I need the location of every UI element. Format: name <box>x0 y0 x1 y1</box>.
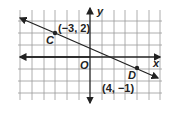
y-axis-label: y <box>96 5 104 17</box>
origin-label: O <box>80 59 89 71</box>
x-axis-label: x <box>152 57 160 69</box>
point-d-coords: (4, −1) <box>102 82 134 94</box>
point-c-label: C <box>46 34 55 46</box>
point-c-coords: (−3, 2) <box>58 22 90 34</box>
point-d-label: D <box>128 69 136 81</box>
coordinate-plane: y x O C (−3, 2) D (4, −1) <box>0 0 170 113</box>
